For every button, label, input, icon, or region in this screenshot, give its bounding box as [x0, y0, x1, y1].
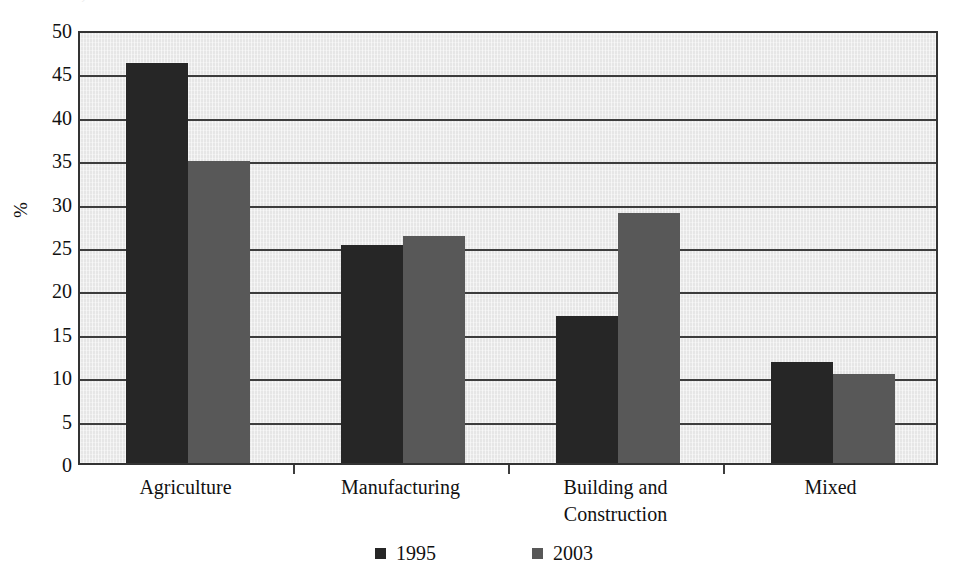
bar-group [771, 33, 895, 463]
x-axis-tick-label: Agriculture [78, 474, 293, 501]
bar-chart-figure: ...Sudan, 1995 and 2003 % 50454035302520… [0, 0, 968, 576]
y-axis-tick-label: 50 [30, 20, 72, 42]
y-axis-tick-label: 20 [30, 280, 72, 302]
legend-item: 1995 [375, 542, 436, 564]
x-axis-tick [293, 465, 295, 474]
x-axis-ticks [78, 465, 938, 474]
y-axis-tick-label: 30 [30, 194, 72, 216]
x-axis-tick-label-line: Agriculture [78, 474, 293, 501]
x-axis-tick-label-line: Manufacturing [293, 474, 508, 501]
x-axis-tick [508, 465, 510, 474]
x-axis-tick [723, 465, 725, 474]
y-axis-tick-label: 10 [30, 367, 72, 389]
bar [341, 245, 403, 463]
y-axis-tick-label: 40 [30, 107, 72, 129]
bars-layer [80, 33, 936, 463]
bar-group [341, 33, 465, 463]
legend-label: 2003 [553, 542, 593, 564]
x-axis-tick-label: Building andConstruction [508, 474, 723, 528]
bar [771, 362, 833, 463]
legend-item: 2003 [532, 542, 593, 564]
y-axis-tick-label: 15 [30, 324, 72, 346]
bar [833, 374, 895, 463]
chart-legend: 19952003 [0, 538, 968, 568]
y-axis-tick-label: 25 [30, 237, 72, 259]
chart-title: ...Sudan, 1995 and 2003 [18, 0, 478, 3]
legend-swatch [375, 548, 386, 559]
y-axis-tick-labels: 50454035302520151050 [30, 31, 72, 465]
bar-group [556, 33, 680, 463]
bar [403, 236, 465, 463]
legend-label: 1995 [396, 542, 436, 564]
y-axis-tick-label: 0 [30, 454, 72, 476]
x-axis-tick-label: Mixed [723, 474, 938, 501]
legend-swatch [532, 548, 543, 559]
bar [618, 213, 680, 463]
x-axis-tick-label: Manufacturing [293, 474, 508, 501]
bar-group [126, 33, 250, 463]
y-axis-tick-label: 45 [30, 63, 72, 85]
bar [188, 161, 250, 463]
plot-area [78, 31, 938, 465]
y-axis-tick-label: 5 [30, 411, 72, 433]
x-axis-tick-label-line: Building and [508, 474, 723, 501]
x-axis-tick-label-line: Mixed [723, 474, 938, 501]
y-axis-tick-label: 35 [30, 150, 72, 172]
x-axis-tick-labels: AgricultureManufacturingBuilding andCons… [78, 474, 938, 532]
bar [126, 63, 188, 463]
x-axis-tick-label-line: Construction [508, 501, 723, 528]
bar [556, 316, 618, 463]
